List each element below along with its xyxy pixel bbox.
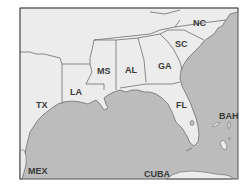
label-fl: FL (176, 100, 187, 110)
label-ms: MS (97, 66, 111, 76)
lake-okeechobee (190, 121, 194, 126)
label-mex: MEX (28, 166, 48, 176)
southeast-us-map: NC SC GA AL MS LA TX FL BAH CUBA MEX (0, 0, 251, 196)
label-tx: TX (36, 100, 48, 110)
label-bah: BAH (219, 111, 239, 121)
label-cuba: CUBA (144, 169, 170, 179)
label-la: LA (70, 87, 82, 97)
label-nc: NC (193, 18, 206, 28)
label-al: AL (125, 65, 137, 75)
label-ga: GA (158, 61, 172, 71)
label-sc: SC (175, 39, 188, 49)
